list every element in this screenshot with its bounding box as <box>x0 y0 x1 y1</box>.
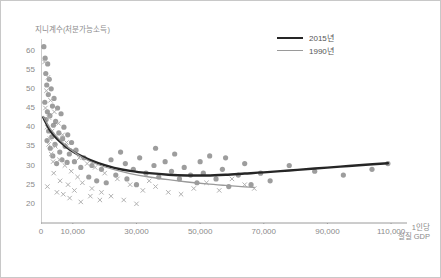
data-point <box>98 198 102 202</box>
data-point <box>58 179 62 183</box>
data-point <box>44 89 48 93</box>
data-point <box>48 98 52 102</box>
data-point <box>45 184 49 188</box>
data-point <box>198 159 203 164</box>
data-point <box>52 171 56 175</box>
data-point <box>369 167 374 172</box>
trend-line <box>43 116 254 187</box>
data-point <box>64 160 69 165</box>
data-point <box>44 82 49 87</box>
y-axis-title: 지니계수(처분가능소득) <box>35 23 110 34</box>
data-point <box>102 171 106 175</box>
x-axis-tick-labels: 010,00030,00050,00070,00090,000110,000 <box>41 227 421 241</box>
data-point <box>287 163 292 168</box>
x-tick-label: 10,000 <box>61 227 85 236</box>
legend-item: 2015년 <box>277 31 387 44</box>
legend-swatch <box>277 37 303 39</box>
scatter-series <box>42 60 256 206</box>
data-point <box>69 169 73 173</box>
data-point <box>61 192 65 196</box>
data-point <box>213 176 218 181</box>
data-point <box>220 167 225 172</box>
data-point <box>99 190 103 194</box>
legend-label: 2015년 <box>309 32 334 43</box>
data-point <box>115 177 119 181</box>
data-point <box>182 165 187 170</box>
y-tick-label: 55 <box>13 65 35 74</box>
data-point <box>90 186 94 190</box>
chart-container: 지니계수(처분가능소득) 1인당 실질 GDP 2025303540455055… <box>0 0 441 278</box>
data-point <box>124 176 129 181</box>
data-point <box>134 202 138 206</box>
data-point <box>66 182 70 186</box>
y-tick-label: 35 <box>13 141 35 150</box>
data-point <box>217 188 221 192</box>
plot-area <box>41 39 407 223</box>
data-point <box>41 44 46 49</box>
data-point <box>151 163 156 168</box>
legend-item: 1990년 <box>277 44 387 57</box>
data-point <box>192 186 196 190</box>
x-tick-label: 110,000 <box>377 227 405 236</box>
data-point <box>141 188 145 192</box>
y-tick-label: 40 <box>13 122 35 131</box>
data-point <box>166 190 170 194</box>
data-point <box>86 174 91 179</box>
y-tick-label: 45 <box>13 103 35 112</box>
data-point <box>226 184 231 189</box>
data-point <box>61 125 66 130</box>
data-point <box>46 142 50 146</box>
data-point <box>85 161 89 165</box>
data-point <box>147 179 151 183</box>
x-tick-label: 70,000 <box>252 227 276 236</box>
data-point <box>163 159 168 164</box>
data-point <box>207 153 212 158</box>
data-point <box>137 155 142 160</box>
data-point <box>69 140 74 145</box>
data-point <box>57 149 62 154</box>
data-point <box>43 56 48 61</box>
data-point <box>80 181 84 185</box>
data-point <box>230 177 234 181</box>
y-tick-label: 50 <box>13 84 35 93</box>
data-point <box>153 184 157 188</box>
data-point <box>50 103 55 108</box>
data-point <box>94 178 99 183</box>
data-point <box>51 123 56 128</box>
legend-label: 1990년 <box>309 45 334 56</box>
data-point <box>43 106 47 110</box>
data-point <box>72 188 76 192</box>
x-tick-label: 30,000 <box>124 227 148 236</box>
data-point <box>79 200 83 204</box>
data-point <box>52 110 56 114</box>
data-point <box>128 182 132 186</box>
data-point <box>42 100 47 105</box>
data-point <box>55 190 59 194</box>
data-point <box>268 178 273 183</box>
y-axis-tick-labels: 202530354045505560 <box>11 39 35 223</box>
data-point <box>172 151 177 156</box>
data-point <box>63 163 67 167</box>
data-point <box>122 198 126 202</box>
data-point <box>47 113 52 118</box>
data-point <box>153 146 158 151</box>
data-point <box>88 194 92 198</box>
data-point <box>134 182 139 187</box>
data-point <box>65 132 70 137</box>
y-tick-label: 30 <box>13 161 35 170</box>
data-point <box>179 192 183 196</box>
data-point <box>67 196 71 200</box>
x-tick-label: 50,000 <box>188 227 212 236</box>
data-point <box>75 175 79 179</box>
data-point <box>169 169 174 174</box>
legend-swatch <box>277 50 303 51</box>
data-point <box>109 194 113 198</box>
y-tick-label: 20 <box>13 199 35 208</box>
data-point <box>341 172 346 177</box>
data-point <box>59 157 64 162</box>
y-tick-label: 25 <box>13 180 35 189</box>
data-point <box>78 165 83 170</box>
data-point <box>51 159 55 163</box>
data-point <box>49 86 54 91</box>
legend: 2015년1990년 <box>277 31 387 57</box>
